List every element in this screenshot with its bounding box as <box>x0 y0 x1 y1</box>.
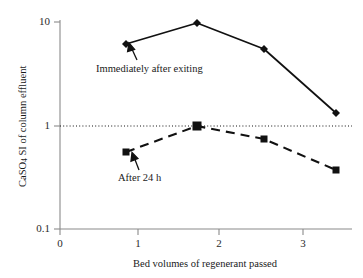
annotation-after-24-h: After 24 h <box>118 172 161 183</box>
data-point-marker <box>261 136 268 143</box>
x-tick-label-2: 2 <box>207 237 231 249</box>
data-point-marker <box>193 122 202 131</box>
chart-figure: 10 1 0.1 0 1 2 3 CaSO4 SI of column effl… <box>0 0 363 278</box>
annotation-immediately-after-exiting: Immediately after exiting <box>96 63 203 74</box>
y-axis-title-prefix: CaSO <box>17 162 28 187</box>
y-tick-label-0.1: 0.1 <box>14 222 50 234</box>
x-tick-label-0: 0 <box>48 237 72 249</box>
data-point-marker <box>123 149 130 156</box>
series-line-after-24-h <box>126 126 336 170</box>
y-tick-label-10: 10 <box>14 15 50 27</box>
annotation-arrow-lower <box>131 153 139 171</box>
data-point-marker <box>333 167 340 174</box>
y-axis-title: CaSO4 SI of column effluent <box>17 56 30 196</box>
data-point-marker <box>193 19 201 27</box>
y-axis-title-subscript: 4 <box>20 158 29 162</box>
x-axis-title: Bed volumes of regenerant passed <box>60 258 350 269</box>
annotation-arrow-upper <box>128 43 137 60</box>
x-tick-label-3: 3 <box>291 237 315 249</box>
series-markers-after-24-h <box>123 122 340 174</box>
x-tick-label-1: 1 <box>126 237 150 249</box>
y-axis-title-suffix: SI of column effluent <box>17 66 28 159</box>
